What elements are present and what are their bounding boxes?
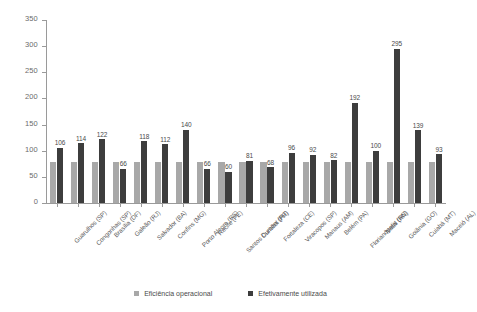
bar-value-label: 96 — [285, 144, 299, 151]
bar-group[interactable]: 192 — [345, 20, 358, 203]
y-tick-label: 50 — [29, 171, 38, 180]
bar-efetivamente-utilizada[interactable] — [373, 151, 379, 203]
legend-item[interactable]: Efetivamente utilizada — [248, 290, 326, 297]
x-tick-mark — [309, 203, 310, 207]
y-tick-label: 150 — [25, 119, 38, 128]
bar-efetivamente-utilizada[interactable] — [352, 103, 358, 203]
bar-value-label: 122 — [95, 131, 109, 138]
light-square-icon — [134, 291, 139, 296]
x-tick-mark — [435, 203, 436, 207]
bar-eficiencia-operacional[interactable] — [197, 162, 203, 203]
bar-value-label: 81 — [242, 152, 256, 159]
bar-eficiencia-operacional[interactable] — [260, 162, 266, 203]
bar-eficiencia-operacional[interactable] — [71, 162, 77, 203]
bar-efetivamente-utilizada[interactable] — [267, 167, 273, 203]
bar-group[interactable]: 112 — [155, 20, 168, 203]
bar-group[interactable]: 68 — [260, 20, 273, 203]
x-tick-mark — [57, 203, 58, 207]
bar-eficiencia-operacional[interactable] — [324, 162, 330, 203]
bar-efetivamente-utilizada[interactable] — [204, 169, 210, 204]
bar-value-label: 140 — [179, 121, 193, 128]
bar-value-label: 66 — [116, 160, 130, 167]
bar-eficiencia-operacional[interactable] — [92, 162, 98, 203]
bar-value-label: 82 — [327, 152, 341, 159]
y-tick-label: 200 — [25, 92, 38, 101]
x-tick-mark — [330, 203, 331, 207]
bar-efetivamente-utilizada[interactable] — [78, 143, 84, 203]
bar-efetivamente-utilizada[interactable] — [99, 139, 105, 203]
bar-group[interactable]: 140 — [176, 20, 189, 203]
bar-efetivamente-utilizada[interactable] — [246, 161, 252, 203]
bar-efetivamente-utilizada[interactable] — [415, 130, 421, 203]
bar-group[interactable]: 93 — [429, 20, 442, 203]
bar-eficiencia-operacional[interactable] — [366, 162, 372, 203]
bar-eficiencia-operacional[interactable] — [429, 162, 435, 203]
bar-eficiencia-operacional[interactable] — [155, 162, 161, 203]
x-category-label: Natal (RN) — [384, 209, 410, 235]
bar-group[interactable]: 92 — [303, 20, 316, 203]
dark-square-icon — [248, 291, 253, 296]
bar-eficiencia-operacional[interactable] — [387, 162, 393, 203]
bar-group[interactable]: 122 — [92, 20, 105, 203]
x-tick-mark — [99, 203, 100, 207]
bar-group[interactable]: 96 — [282, 20, 295, 203]
bar-group[interactable]: 60 — [218, 20, 231, 203]
bar-efetivamente-utilizada[interactable] — [289, 153, 295, 203]
bar-efetivamente-utilizada[interactable] — [310, 155, 316, 203]
x-tick-mark — [162, 203, 163, 207]
x-tick-mark — [120, 203, 121, 207]
y-tick-mark — [42, 203, 46, 204]
bar-eficiencia-operacional[interactable] — [134, 162, 140, 203]
bar-efetivamente-utilizada[interactable] — [120, 169, 126, 204]
bar-efetivamente-utilizada[interactable] — [331, 160, 337, 203]
bar-value-label: 112 — [158, 136, 172, 143]
bar-value-label: 295 — [390, 40, 404, 47]
bar-eficiencia-operacional[interactable] — [113, 162, 119, 203]
bar-group[interactable]: 295 — [387, 20, 400, 203]
x-tick-mark — [141, 203, 142, 207]
bar-group[interactable]: 139 — [408, 20, 421, 203]
x-tick-mark — [351, 203, 352, 207]
bar-group[interactable]: 81 — [239, 20, 252, 203]
bar-eficiencia-operacional[interactable] — [239, 162, 245, 203]
bar-group[interactable]: 66 — [113, 20, 126, 203]
bar-value-label: 106 — [53, 139, 67, 146]
bar-value-label: 66 — [200, 160, 214, 167]
bar-group[interactable]: 106 — [50, 20, 63, 203]
legend-item[interactable]: Eficiência operacional — [134, 290, 212, 297]
bar-group[interactable]: 118 — [134, 20, 147, 203]
x-tick-mark — [414, 203, 415, 207]
bar-efetivamente-utilizada[interactable] — [57, 148, 63, 203]
bar-eficiencia-operacional[interactable] — [408, 162, 414, 203]
bar-eficiencia-operacional[interactable] — [303, 162, 309, 203]
y-tick-label: 250 — [25, 66, 38, 75]
bar-efetivamente-utilizada[interactable] — [436, 154, 442, 203]
x-tick-mark — [225, 203, 226, 207]
x-tick-mark — [183, 203, 184, 207]
bar-efetivamente-utilizada[interactable] — [225, 172, 231, 203]
bar-eficiencia-operacional[interactable] — [282, 162, 288, 203]
bar-value-label: 139 — [411, 122, 425, 129]
bar-value-label: 60 — [221, 163, 235, 170]
bar-group[interactable]: 82 — [324, 20, 337, 203]
bar-eficiencia-operacional[interactable] — [50, 162, 56, 203]
bar-efetivamente-utilizada[interactable] — [141, 141, 147, 203]
bar-value-label: 68 — [263, 159, 277, 166]
bar-group[interactable]: 66 — [197, 20, 210, 203]
bar-efetivamente-utilizada[interactable] — [162, 144, 168, 203]
bar-group[interactable]: 100 — [366, 20, 379, 203]
bar-group[interactable]: 114 — [71, 20, 84, 203]
bar-eficiencia-operacional[interactable] — [176, 162, 182, 203]
y-tick-label: 0 — [34, 197, 38, 206]
bar-efetivamente-utilizada[interactable] — [183, 130, 189, 203]
bar-efetivamente-utilizada[interactable] — [394, 49, 400, 203]
bar-value-label: 93 — [432, 146, 446, 153]
bar-eficiencia-operacional[interactable] — [345, 162, 351, 203]
x-tick-mark — [204, 203, 205, 207]
y-tick-label: 100 — [25, 145, 38, 154]
legend-label: Efetivamente utilizada — [258, 290, 326, 297]
y-tick-label: 350 — [25, 14, 38, 23]
bar-value-label: 118 — [137, 133, 151, 140]
bar-value-label: 114 — [74, 135, 88, 142]
